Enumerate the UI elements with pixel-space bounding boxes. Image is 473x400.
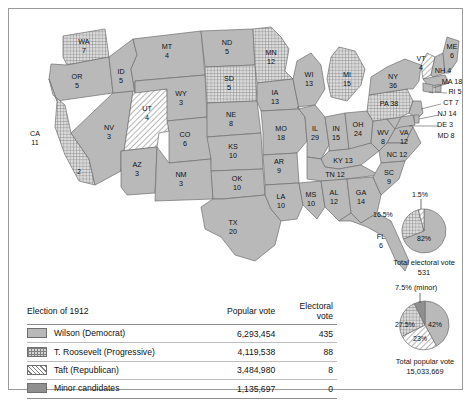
label-NY: NY (388, 72, 398, 81)
label-MO: MO (275, 124, 287, 133)
electoral-vote-value: 435 (281, 325, 337, 343)
label-AR-votes: 9 (277, 166, 281, 175)
popular-vote-value: 1,135,697 (201, 380, 282, 398)
electoral-label-wilson: 82% (417, 235, 431, 242)
popular-pie-chart: 42% 23% 27.5% Total popular vote 15,033,… (387, 291, 464, 383)
label-MS-votes: 10 (307, 199, 315, 208)
label-GA: GA (356, 188, 367, 197)
label-DE: DE 3 (437, 120, 453, 129)
label-SD-votes: 5 (227, 83, 231, 92)
state-DE[interactable] (414, 115, 419, 123)
state-CT[interactable] (423, 83, 433, 93)
label-ME: ME (447, 42, 458, 51)
label-SD: SD (224, 74, 234, 83)
label-IN: IN (332, 124, 339, 133)
table-row[interactable]: T. Roosevelt (Progressive) 4,119,538 88 (27, 343, 337, 361)
label-FL-votes: 6 (379, 241, 383, 250)
table-row[interactable]: Wilson (Democrat) 6,293,454 435 (27, 325, 337, 343)
label-TX: TX (228, 218, 237, 227)
label-LA: LA (277, 192, 286, 201)
state-AZ[interactable] (121, 147, 157, 195)
label-IL-votes: 29 (311, 133, 319, 142)
leader-DE (419, 115, 439, 119)
label-NV-votes: 3 (107, 132, 111, 141)
label-WI-votes: 13 (305, 79, 313, 88)
popular-label-minor: 7.5% (minor) (395, 283, 437, 292)
electoral-vote-value: 8 (281, 361, 337, 379)
label-ID: ID (117, 67, 124, 76)
popular-label-roosevelt: 27.5% (395, 321, 415, 328)
label-KS-votes: 10 (229, 151, 237, 160)
label-CA: CA (30, 129, 40, 138)
label-ND-votes: 5 (225, 47, 229, 56)
label-SC: SC (384, 168, 394, 177)
electoral-label-roosevelt: 16.5% (373, 211, 393, 218)
label-MS: MS (306, 190, 317, 199)
header-election-title: Election of 1912 (27, 301, 201, 325)
electoral-caption-line2: 531 (418, 268, 430, 277)
label-MN: MN (265, 48, 276, 57)
label-CO-votes: 6 (183, 139, 187, 148)
popular-vote-value: 4,119,538 (201, 343, 282, 361)
label-IN-votes: 15 (332, 133, 340, 142)
state-SD[interactable] (205, 65, 257, 103)
label-OR-votes: 5 (75, 81, 79, 90)
label-MO-votes: 18 (277, 133, 285, 142)
header-electoral-vote: Electoral vote (281, 301, 337, 325)
table-row[interactable]: Taft (Republican) 3,484,980 8 (27, 361, 337, 379)
label-CA-votes: 11 (31, 138, 38, 147)
popular-label-taft: 23% (413, 335, 427, 342)
label-VA: VA (399, 128, 408, 137)
election-map: WA 7 OR 5 CA 11 2 NV 3 ID 5 UT 4 AZ 3 MT… (9, 9, 464, 291)
label-UT-votes: 4 (145, 113, 149, 122)
popular-vote-value: 3,484,980 (201, 361, 282, 379)
electoral-label-taft: 1.5% (412, 191, 428, 198)
label-KY: KY 13 (333, 156, 352, 165)
popular-vote-value: 6,293,454 (201, 325, 282, 343)
label-NE-votes: 8 (229, 119, 233, 128)
label-IA: IA (272, 88, 279, 97)
label-UT: UT (142, 104, 152, 113)
label-KS: KS (228, 142, 238, 151)
header-popular-vote: Popular vote (201, 301, 282, 325)
label-NC: NC 12 (387, 150, 407, 159)
label-OH: OH (353, 120, 364, 129)
label-TX-votes: 20 (229, 227, 237, 236)
candidate-name: Minor candidates (54, 383, 119, 393)
state-NE[interactable] (207, 101, 261, 137)
label-AL: AL (330, 188, 339, 197)
row-candidate-cell: Taft (Republican) (27, 361, 201, 379)
label-CT: CT 7 (443, 98, 458, 107)
label-WI: WI (305, 70, 314, 79)
swatch-taft-icon (27, 365, 47, 375)
candidate-name: T. Roosevelt (Progressive) (54, 347, 155, 357)
label-IA-votes: 13 (271, 97, 279, 106)
label-NM: NM (175, 170, 186, 179)
table-row[interactable]: Minor candidates 1,135,697 0 (27, 380, 337, 398)
label-TN: TN 12 (325, 170, 345, 179)
electoral-vote-value: 0 (281, 380, 337, 398)
table-header-row: Election of 1912 Popular vote Electoral … (27, 301, 337, 325)
results-table: Election of 1912 Popular vote Electoral … (27, 301, 337, 399)
label-OK-votes: 10 (233, 183, 241, 192)
label-WV-votes: 8 (381, 137, 385, 146)
label-NM-votes: 3 (179, 179, 183, 188)
label-WY: WY (175, 89, 187, 98)
state-CO[interactable] (167, 117, 211, 163)
candidate-name: Wilson (Democrat) (54, 328, 125, 338)
label-OR: OR (72, 72, 83, 81)
label-NY-votes: 36 (389, 81, 397, 90)
label-AZ-votes: 3 (135, 169, 139, 178)
label-VT-votes: 4 (419, 63, 423, 72)
label-NE: NE (226, 110, 236, 119)
label-AZ: AZ (132, 160, 142, 169)
label-ME-votes: 6 (450, 51, 454, 60)
label-LA-votes: 10 (277, 201, 285, 210)
label-VT: VT (416, 54, 426, 63)
label-CA-split: 2 (77, 168, 81, 175)
label-CO: CO (180, 130, 191, 139)
label-AL-votes: 12 (330, 197, 338, 206)
figure-frame: WA 7 OR 5 CA 11 2 NV 3 ID 5 UT 4 AZ 3 MT… (8, 8, 463, 390)
label-OH-votes: 24 (354, 129, 362, 138)
popular-caption-line1: Total popular vote (396, 357, 454, 366)
